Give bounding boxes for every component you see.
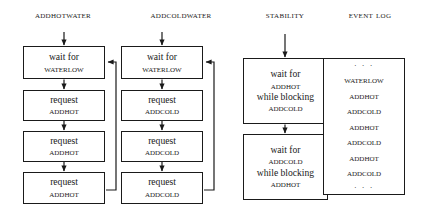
column-header-addcoldwater: AddColdWater — [122, 9, 240, 20]
step-line: AddHot — [49, 188, 79, 199]
step-line: AddCold — [268, 102, 302, 113]
event-log-entry: AddHot — [349, 122, 379, 132]
step-line: request — [50, 94, 78, 105]
step-line: while blocking — [257, 167, 314, 178]
step-line: AddCold — [145, 188, 179, 199]
step-line: wait for — [147, 51, 177, 62]
event-log-entry: AddHot — [349, 91, 379, 101]
step-line: wait for — [270, 68, 300, 79]
process-step-addcoldwater-3: request AddCold — [121, 131, 203, 162]
step-line: request — [50, 135, 78, 146]
step-line: WaterLow — [142, 63, 181, 74]
process-step-addcoldwater-1: wait for WaterLow — [121, 46, 203, 79]
event-log-entry: AddCold — [347, 168, 381, 178]
event-log-entry: AddHot — [349, 153, 379, 163]
step-line: AddCold — [268, 155, 302, 166]
process-step-addhotwater-2: request AddHot — [23, 90, 105, 121]
column-header-stability: Stability — [238, 9, 332, 20]
step-line: AddHot — [271, 80, 301, 91]
event-log-entry: WaterLow — [344, 75, 383, 85]
step-line: while blocking — [257, 91, 314, 102]
process-step-addhotwater-3: request AddHot — [23, 131, 105, 162]
step-line: AddHot — [271, 178, 301, 189]
step-line: request — [148, 135, 176, 146]
step-line: AddCold — [145, 105, 179, 116]
diagram-canvas: AddHotWater AddColdWater Stability Event… — [0, 0, 421, 216]
step-line: request — [148, 94, 176, 105]
step-line: wait for — [270, 144, 300, 155]
process-step-stability-2: wait for AddCold while blocking AddHot — [243, 134, 328, 200]
column-header-eventlog: Event Log — [324, 9, 416, 20]
step-line: AddHot — [49, 146, 79, 157]
step-line: request — [50, 176, 78, 187]
event-log-entry: AddCold — [347, 137, 381, 147]
event-log-box: · · · WaterLow AddHot AddCold AddHot Add… — [323, 58, 405, 195]
process-step-addhotwater-1: wait for WaterLow — [23, 46, 105, 79]
step-line: wait for — [49, 51, 79, 62]
step-line: WaterLow — [44, 63, 83, 74]
step-line: AddHot — [49, 105, 79, 116]
step-line: request — [148, 176, 176, 187]
process-step-addcoldwater-2: request AddCold — [121, 90, 203, 121]
step-line: AddCold — [145, 146, 179, 157]
process-step-addhotwater-4: request AddHot — [23, 172, 105, 204]
event-log-entry: AddCold — [347, 106, 381, 116]
event-log-leading-ellipsis: · · · — [354, 62, 374, 70]
process-step-addcoldwater-4: request AddCold — [121, 172, 203, 204]
event-log-trailing-ellipsis: · · · — [354, 184, 374, 192]
column-header-addhotwater: AddHotWater — [8, 9, 118, 20]
process-step-stability-1: wait for AddHot while blocking AddCold — [243, 58, 328, 124]
